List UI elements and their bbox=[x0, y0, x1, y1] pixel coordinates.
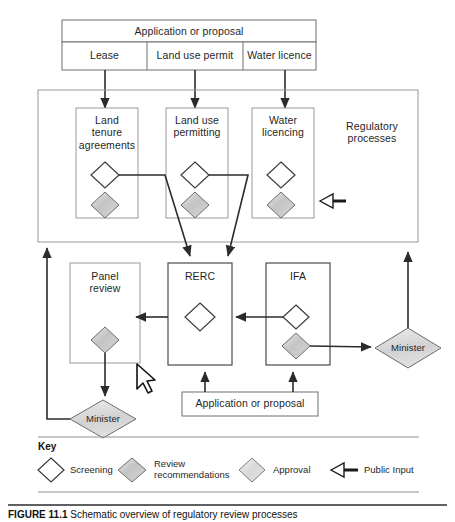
figure-diagram: Application or proposal Lease Land use p… bbox=[0, 0, 455, 522]
regulatory-box-land-tenure-agreements bbox=[76, 108, 138, 218]
review-box-rerc bbox=[168, 263, 232, 365]
figure-caption: FIGURE 11.1 Schematic overview of regula… bbox=[8, 509, 448, 520]
key-screening-diamond bbox=[38, 458, 64, 482]
top-application-table bbox=[62, 20, 316, 70]
key-label-review-recommendations: Review recommendations bbox=[154, 458, 230, 481]
diagram-canvas bbox=[0, 0, 455, 522]
figure-caption-text: Schematic overview of regulatory review … bbox=[67, 509, 297, 520]
public-input-arrow-icon bbox=[320, 194, 346, 208]
key-public-input-arrow-icon bbox=[331, 463, 358, 477]
key-approval-diamond bbox=[239, 458, 265, 482]
key-title: Key bbox=[38, 441, 56, 452]
key-label-public-input: Public Input bbox=[364, 464, 414, 475]
review-box-ifa bbox=[266, 263, 330, 365]
figure-caption-number: FIGURE 11.1 bbox=[8, 509, 67, 520]
bottom-application-box bbox=[182, 372, 318, 416]
key-review-diamond bbox=[118, 458, 146, 482]
key-label-screening: Screening bbox=[70, 464, 113, 475]
review-box-panel-review bbox=[70, 263, 140, 363]
regulatory-box-land-use-permitting bbox=[166, 108, 228, 218]
key-label-approval: Approval bbox=[273, 464, 311, 475]
regulatory-box-water-licencing bbox=[252, 108, 314, 218]
mouse-cursor-icon bbox=[137, 364, 155, 393]
top-connectors bbox=[105, 70, 285, 108]
